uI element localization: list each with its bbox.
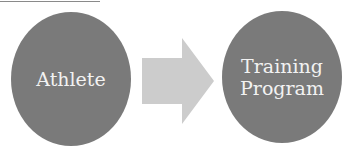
- top-rule-line: [0, 1, 100, 2]
- athlete-node-label: Athlete: [36, 68, 105, 90]
- training-program-node-label: Training Program: [240, 55, 324, 99]
- right-arrow-icon: [142, 38, 214, 124]
- athlete-node: Athlete: [11, 12, 131, 146]
- training-program-node: Training Program: [222, 11, 342, 143]
